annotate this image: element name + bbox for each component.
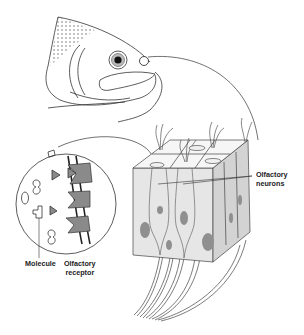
callout-line-large [148, 56, 258, 140]
olfaction-diagram [0, 0, 304, 335]
receptor-inset [16, 150, 116, 258]
fish-eye [109, 51, 127, 69]
olfactory-epithelium [133, 140, 250, 262]
label-olfactory-receptor: Olfactory receptor [64, 259, 96, 277]
gill-line [70, 92, 130, 100]
fish-head [46, 17, 162, 122]
label-olfactory-neurons: Olfactory neurons [256, 170, 288, 188]
callout-line-inset [58, 137, 152, 155]
nostril [140, 57, 149, 66]
label-molecule: Molecule [25, 259, 56, 268]
